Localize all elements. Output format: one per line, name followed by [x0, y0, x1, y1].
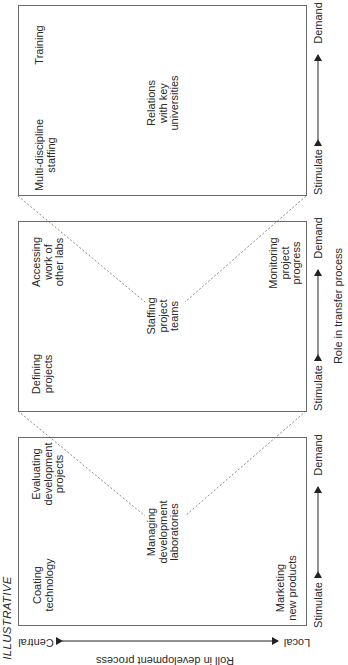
label-stimulate-3: Stimulate [313, 582, 325, 628]
label-demand-3: Demand [313, 434, 325, 476]
y-axis-title: Roll in development process [96, 654, 234, 665]
label-evaluating-development-projects: Evaluating development projects [31, 443, 66, 506]
label-training: Training [34, 25, 46, 64]
label-defining-projects: Defining projects [31, 354, 54, 394]
label-demand-1: Demand [313, 2, 325, 44]
label-coating-technology: Coating technology [32, 558, 55, 611]
diagram-canvas: Training Multi-discipline staffing Relat… [0, 0, 348, 665]
label-relations-with-key-universities: Relations with key universities [146, 75, 181, 130]
label-multi-discipline-staffing: Multi-discipline staffing [34, 119, 57, 191]
label-stimulate-2: Stimulate [313, 365, 325, 411]
label-monitoring-project-progress: Monitoring project progress [268, 237, 303, 288]
y-axis-top-label-central: Central [18, 636, 53, 648]
x-axis-title: Role in transfer process [333, 248, 345, 364]
label-marketing-new-products: Marketing new products [275, 555, 298, 620]
label-stimulate-1: Stimulate [313, 149, 325, 195]
label-accessing-work-of-other-labs: Accessing work of other labs [31, 237, 66, 287]
label-managing-development-laboratories: Managing development laboratories [146, 501, 181, 564]
illustrative-tag: ILLUSTRATIVE [2, 576, 14, 659]
label-staffing-project-teams: Staffing project teams [146, 297, 181, 334]
label-demand-2: Demand [313, 217, 325, 259]
y-axis-bottom-label-local: Local [284, 636, 310, 648]
